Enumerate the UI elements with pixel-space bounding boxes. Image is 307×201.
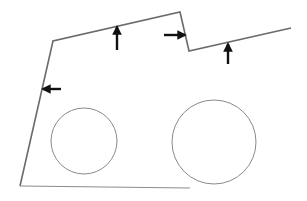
left-circle [51,108,117,174]
boundary-polyline [20,12,291,186]
diagram-canvas [0,0,307,201]
base-line [20,186,190,188]
right-circle [172,100,256,184]
circles-group [51,100,256,184]
